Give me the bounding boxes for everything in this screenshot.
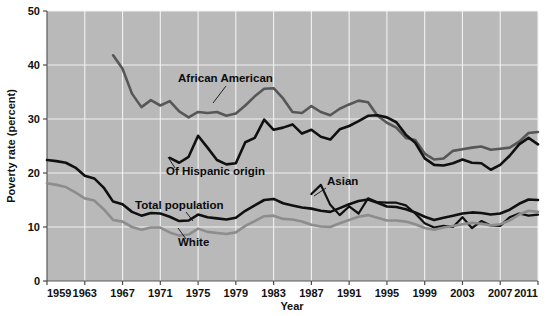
series-label-total-population: Total population <box>135 199 224 211</box>
plot-area-background <box>47 11 538 281</box>
x-tick-label-2011: 2011 <box>514 287 538 299</box>
x-tick-label-1995: 1995 <box>375 287 399 299</box>
x-tick-label-1959: 1959 <box>47 287 71 299</box>
y-tick-label-30: 30 <box>28 113 40 125</box>
x-tick-label-1987: 1987 <box>299 287 323 299</box>
x-tick-label-1963: 1963 <box>73 287 97 299</box>
x-tick-label-1999: 1999 <box>412 287 436 299</box>
series-label-white: White <box>178 236 209 248</box>
y-tick-label-40: 40 <box>28 59 40 71</box>
series-label-african-american: African American <box>178 72 273 84</box>
x-axis-tick-labels: 1959196319671971197519791983198719911995… <box>47 287 538 299</box>
y-tick-label-0: 0 <box>34 275 40 287</box>
x-tick-label-1971: 1971 <box>148 287 172 299</box>
x-tick-label-1983: 1983 <box>261 287 285 299</box>
y-axis-tick-labels: 01020304050 <box>28 5 40 287</box>
poverty-rate-line-chart: 01020304050 1959196319671971197519791983… <box>0 0 551 316</box>
series-label-asian: Asian <box>327 175 358 187</box>
x-tick-label-1979: 1979 <box>224 287 248 299</box>
y-tick-label-20: 20 <box>28 167 40 179</box>
x-tick-label-2007: 2007 <box>488 287 512 299</box>
x-tick-label-2003: 2003 <box>450 287 474 299</box>
y-tick-label-10: 10 <box>28 221 40 233</box>
x-tick-label-1991: 1991 <box>337 287 361 299</box>
x-tick-label-1975: 1975 <box>186 287 210 299</box>
y-axis-title: Poverty rate (percent) <box>5 89 17 203</box>
x-axis-title: Year <box>280 300 304 312</box>
series-label-of-hispanic-origin: Of Hispanic origin <box>166 165 265 177</box>
chart-canvas: 01020304050 1959196319671971197519791983… <box>0 0 551 316</box>
x-tick-label-1967: 1967 <box>110 287 134 299</box>
y-tick-label-50: 50 <box>28 5 40 17</box>
